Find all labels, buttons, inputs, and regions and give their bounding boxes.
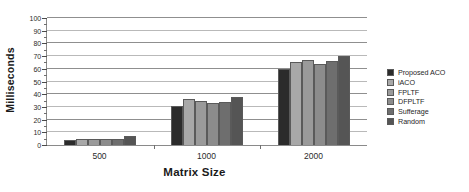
bar — [171, 106, 183, 145]
y-axis-tick — [42, 145, 47, 146]
y-axis-minor-tick — [44, 126, 47, 127]
x-axis-tick-labels: 50010002000 — [46, 151, 367, 165]
x-axis-tick-label: 500 — [46, 151, 153, 165]
bar-groups — [47, 18, 367, 145]
bar — [326, 61, 338, 145]
legend-swatch — [387, 79, 394, 86]
y-axis-minor-tick — [44, 50, 47, 51]
plot-area — [46, 18, 367, 146]
plot-wrapper: 0102030405060708090100 50010002000 — [22, 10, 367, 160]
legend-item: Proposed ACO — [387, 68, 469, 77]
legend-item: Sufferage — [387, 107, 469, 116]
y-axis-minor-tick — [44, 88, 47, 89]
legend-label: Proposed ACO — [398, 68, 445, 77]
bar — [183, 99, 195, 145]
x-axis-title: Matrix Size — [22, 166, 367, 178]
y-axis-tick — [42, 94, 47, 95]
x-axis-tick-label: 1000 — [153, 151, 260, 165]
y-axis-tick-label: 100 — [30, 15, 41, 22]
legend-swatch — [387, 69, 394, 76]
y-axis-tick — [42, 132, 47, 133]
y-axis-tick — [42, 120, 47, 121]
x-axis-tick — [260, 145, 261, 149]
y-axis-tick — [42, 18, 47, 19]
y-axis-tick — [42, 31, 47, 32]
y-axis-tick — [42, 82, 47, 83]
bar — [231, 97, 243, 145]
y-axis-tick-label: 20 — [33, 116, 41, 123]
y-axis-tick — [42, 56, 47, 57]
y-axis-tick-label: 90 — [33, 27, 41, 34]
y-axis-title: Milliseconds — [0, 0, 20, 160]
legend-swatch — [387, 108, 394, 115]
y-axis-tick — [42, 69, 47, 70]
bar — [195, 101, 207, 145]
y-axis-minor-tick — [44, 75, 47, 76]
bar-group — [260, 18, 367, 145]
bar — [314, 64, 326, 145]
bar — [64, 140, 76, 145]
y-axis-tick-label: 10 — [33, 129, 41, 136]
y-axis-title-text: Milliseconds — [4, 47, 16, 112]
bar — [290, 62, 302, 145]
legend-label: Sufferage — [398, 107, 429, 116]
bar — [219, 102, 231, 145]
x-axis-tick — [154, 145, 155, 149]
legend-item: DFPLTF — [387, 97, 469, 106]
y-axis-tick-label: 50 — [33, 78, 41, 85]
legend-label: FPLTF — [398, 88, 419, 97]
bar — [76, 139, 88, 145]
bar — [88, 139, 100, 145]
y-axis-tick-label: 80 — [33, 40, 41, 47]
legend-label: Random — [398, 117, 425, 126]
bar — [100, 139, 112, 145]
y-axis-tick-label: 70 — [33, 53, 41, 60]
y-axis-tick-label: 0 — [37, 142, 41, 149]
y-axis-minor-tick — [44, 37, 47, 38]
y-axis-tick-label: 30 — [33, 103, 41, 110]
bar — [338, 56, 350, 145]
legend-item: Random — [387, 117, 469, 126]
legend-swatch — [387, 98, 394, 105]
bar-group — [47, 18, 154, 145]
bar — [207, 103, 219, 145]
bar-chart: Milliseconds 0102030405060708090100 5001… — [0, 0, 469, 192]
x-axis-tick-label: 2000 — [260, 151, 367, 165]
bar — [112, 139, 124, 145]
legend-item: FPLTF — [387, 88, 469, 97]
y-axis-tick — [42, 43, 47, 44]
bar — [124, 136, 136, 145]
y-axis-minor-tick — [44, 62, 47, 63]
y-axis-tick — [42, 107, 47, 108]
y-axis-tick-label: 60 — [33, 65, 41, 72]
y-axis-minor-tick — [44, 139, 47, 140]
bar — [302, 60, 314, 145]
legend-item: iACO — [387, 78, 469, 87]
legend-swatch — [387, 89, 394, 96]
legend: Proposed ACOiACOFPLTFDFPLTFSufferageRand… — [387, 68, 469, 127]
y-axis-minor-tick — [44, 101, 47, 102]
y-axis-minor-tick — [44, 113, 47, 114]
legend-swatch — [387, 118, 394, 125]
legend-label: DFPLTF — [398, 97, 424, 106]
legend-label: iACO — [398, 78, 415, 87]
bar — [278, 69, 290, 145]
bar-group — [154, 18, 261, 145]
y-axis-minor-tick — [44, 24, 47, 25]
y-axis-tick-labels: 0102030405060708090100 — [22, 10, 44, 160]
y-axis-tick-label: 40 — [33, 91, 41, 98]
